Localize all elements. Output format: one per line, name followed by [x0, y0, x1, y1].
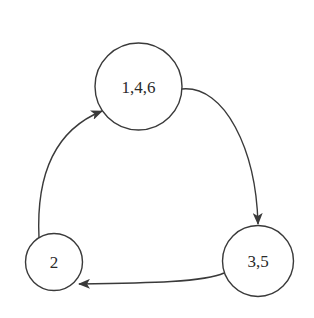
node-2: 2: [26, 234, 83, 291]
node-label: 3,5: [247, 252, 268, 271]
edge-2-to-146: [39, 111, 102, 238]
node-1-4-6: 1,4,6: [95, 43, 182, 130]
diagram-svg: 1,4,6 3,5 2: [0, 0, 314, 318]
edge-146-to-35: [182, 89, 258, 224]
state-diagram: 1,4,6 3,5 2: [0, 0, 314, 318]
node-label: 2: [50, 253, 59, 272]
edge-35-to-2: [79, 273, 224, 284]
node-3-5: 3,5: [223, 226, 294, 297]
node-label: 1,4,6: [122, 78, 156, 97]
